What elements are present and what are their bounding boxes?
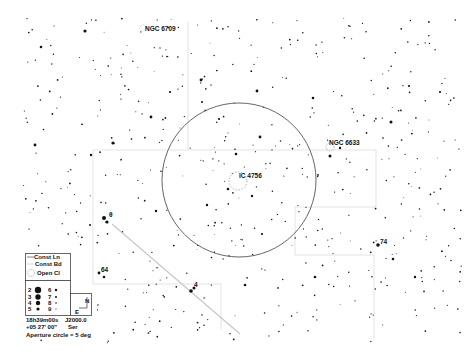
star (269, 163, 270, 164)
star-chart: NGC 6709 NGC 6633 IC 4756 74 64 4 θ Cons… (0, 0, 474, 355)
legend-open-cl: Open Cl (37, 270, 60, 276)
star (388, 145, 390, 147)
star (175, 286, 177, 288)
star (419, 187, 421, 189)
star (433, 192, 434, 193)
star (265, 163, 266, 164)
star (334, 260, 335, 261)
star (201, 101, 203, 103)
star (357, 120, 359, 122)
star (445, 176, 446, 177)
star (425, 330, 427, 332)
star (382, 137, 384, 139)
star (376, 240, 377, 241)
star (411, 133, 413, 135)
star (227, 26, 228, 27)
star (459, 332, 461, 334)
star (381, 159, 382, 160)
star (317, 176, 319, 178)
star (34, 144, 37, 147)
star (254, 228, 256, 230)
star (159, 142, 160, 143)
star (386, 285, 388, 287)
star (86, 23, 87, 24)
star (401, 203, 403, 205)
star (131, 138, 133, 140)
star (382, 324, 383, 325)
mag-dot-3 (35, 294, 40, 299)
star (160, 279, 161, 280)
star (316, 319, 317, 320)
star (348, 25, 349, 26)
star (142, 183, 143, 184)
star (457, 308, 459, 310)
mag-dot-5 (36, 307, 39, 310)
star (421, 277, 422, 278)
star (448, 104, 449, 105)
star (450, 260, 452, 262)
star (437, 157, 438, 158)
star (313, 112, 314, 113)
star (322, 265, 324, 267)
star (285, 221, 286, 222)
star (148, 332, 150, 334)
star (199, 327, 200, 328)
star (250, 45, 251, 46)
mag-dot-8 (55, 302, 57, 304)
star (373, 94, 374, 95)
star (120, 98, 121, 99)
star (144, 200, 146, 202)
star (67, 187, 68, 188)
star (369, 317, 370, 318)
star (403, 237, 404, 238)
star (277, 214, 278, 215)
star (216, 121, 218, 123)
star (177, 56, 179, 58)
star (200, 160, 201, 161)
star (333, 286, 335, 288)
star (100, 202, 102, 204)
star (329, 155, 332, 158)
star (129, 129, 130, 130)
star (450, 100, 452, 102)
star (337, 172, 339, 174)
star (272, 86, 274, 88)
star (76, 232, 78, 234)
star (204, 109, 205, 110)
star (154, 71, 155, 72)
star (211, 257, 213, 259)
star (227, 203, 229, 205)
star (189, 289, 193, 293)
star (283, 324, 284, 325)
star (346, 158, 347, 159)
star (149, 317, 150, 318)
star (272, 191, 273, 192)
star (62, 223, 63, 224)
star (362, 23, 363, 24)
label-star-64: 64 (101, 266, 109, 273)
star (235, 315, 236, 316)
star (400, 110, 402, 112)
star (191, 53, 192, 54)
legend-const-bd: Const Bd (35, 261, 62, 267)
compass-e: E (75, 309, 79, 315)
star (107, 342, 108, 343)
star (65, 212, 66, 213)
star (302, 32, 304, 34)
star (257, 57, 258, 58)
star (138, 197, 140, 199)
star (201, 314, 202, 315)
star (365, 31, 367, 33)
star (105, 175, 106, 176)
star (27, 62, 28, 63)
star (166, 277, 167, 278)
star (388, 158, 389, 159)
star (455, 139, 456, 140)
star (316, 53, 318, 55)
star (113, 332, 115, 334)
star (132, 252, 133, 253)
mag-dot-7 (55, 296, 57, 298)
star (439, 91, 441, 93)
star (395, 52, 396, 53)
star (394, 245, 395, 246)
